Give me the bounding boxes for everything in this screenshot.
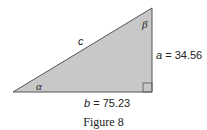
side-b-value: = 75.23 — [90, 97, 130, 109]
figure: c β α a = 34.56 b = 75.23 Figure 8 — [0, 0, 207, 130]
right-triangle-diagram — [0, 0, 207, 130]
side-b-label: b = 75.23 — [84, 98, 130, 109]
triangle-shape — [13, 8, 152, 92]
side-a-label: a = 34.56 — [156, 50, 202, 61]
side-a-value: = 34.56 — [162, 49, 202, 61]
hypotenuse-label: c — [78, 36, 84, 47]
figure-caption: Figure 8 — [0, 115, 207, 130]
angle-alpha-label: α — [36, 81, 42, 92]
angle-beta-label: β — [142, 19, 147, 30]
